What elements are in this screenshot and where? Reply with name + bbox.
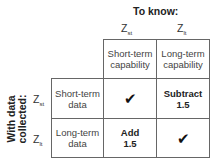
check-icon: ✔ — [157, 119, 209, 157]
column-label-long-term: Long-term capability — [157, 40, 209, 78]
row-label-long-term: Long-term data — [52, 119, 103, 157]
column-symbol-zlt: Zlt — [177, 22, 186, 36]
column-symbol-zst: Zst — [121, 22, 132, 36]
column-header-title: To know: — [133, 5, 178, 17]
cell-add: Add1.5 — [104, 119, 156, 157]
row-symbol-zst: Zst — [33, 93, 44, 107]
grid-line — [156, 39, 157, 158]
grid-line — [103, 39, 104, 158]
grid-line — [51, 118, 210, 119]
row-label-short-term: Short-term data — [52, 79, 103, 118]
grid-line — [51, 78, 52, 158]
row-header-title: With datacollected: — [0, 80, 34, 158]
column-label-short-term: Short-term capability — [104, 40, 156, 78]
row-symbol-zlt: Zlt — [33, 133, 42, 147]
grid-line — [209, 39, 210, 158]
grid-line — [51, 157, 210, 158]
cell-subtract: Subtract1.5 — [157, 79, 209, 118]
check-icon: ✔ — [104, 79, 156, 118]
grid-line — [51, 78, 210, 79]
